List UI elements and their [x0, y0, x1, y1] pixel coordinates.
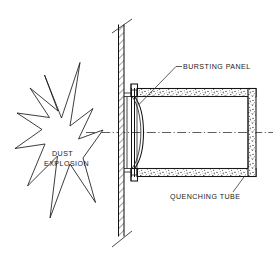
bursting-panel-leader [139, 67, 182, 105]
quenching-tube-leader [233, 177, 244, 192]
vessel-wall [112, 19, 132, 247]
quenching-tube-label: QUENCHING TUBE [170, 193, 240, 201]
bursting-panel-label: BURSTING PANEL [183, 63, 251, 71]
technical-diagram: DUST EXPLOSION [0, 0, 273, 258]
dust-explosion-star [15, 63, 103, 219]
diagram-canvas: DUST EXPLOSION [0, 0, 273, 258]
dust-explosion-label-line2: EXPLOSION [44, 160, 89, 168]
dust-explosion-label-line1: DUST [52, 150, 73, 158]
